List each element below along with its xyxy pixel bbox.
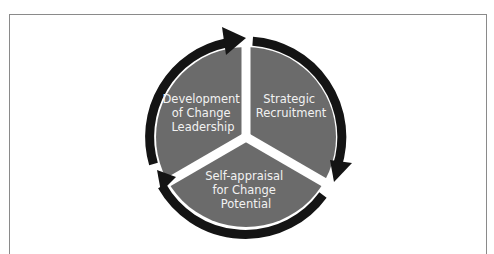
arrowhead-right-icon — [330, 160, 352, 182]
label-development: Development of Change Leadership — [162, 92, 243, 134]
label-recruitment: Strategic Recruitment — [256, 92, 327, 120]
